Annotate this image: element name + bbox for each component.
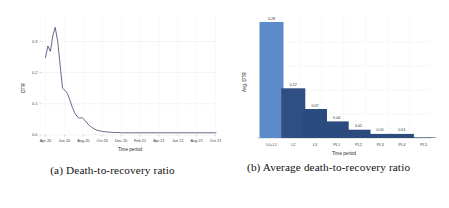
subfigure-a-caption: (a) Death-to-recovery ratio: [15, 164, 211, 178]
bar-chart-svg: 0.28 0.12 0.07 0.04 0.02 0.01 0.01 Avg. …: [225, 0, 449, 160]
bar-value-label: 0.07: [311, 104, 318, 108]
line-chart-svg: 0.0 0.1 0.2 0.3 DTR: [0, 0, 225, 162]
x-axis-title: Time period: [118, 147, 143, 152]
subfigure-b-caption: (b) Average death-to-recovery ratio: [239, 161, 435, 175]
y-tick-label: 0.3: [32, 39, 37, 44]
x-tick-label: Apr 20: [40, 138, 52, 143]
x-tick-label: PL1: [333, 142, 340, 147]
x-tick-label: Dec 20: [115, 138, 128, 143]
x-axis-title: Time period: [332, 151, 357, 156]
bar-value-label: 0.01: [398, 128, 405, 132]
x-tick-label: PL2: [355, 142, 362, 147]
bar-PL3[interactable]: [368, 134, 392, 138]
y-tick-label: 0.0: [32, 132, 38, 137]
bar-value-label: 0.02: [355, 124, 362, 128]
bar-value-label: 0.12: [290, 83, 297, 87]
bar-value-label: 0.04: [333, 116, 340, 120]
bar-chart-avg-dtr: 0.28 0.12 0.07 0.04 0.02 0.01 0.01 Avg. …: [225, 0, 449, 160]
x-tick-label: Feb 21: [134, 138, 146, 143]
bar-value-label: 0.01: [377, 128, 384, 132]
bar-PL4[interactable]: [390, 134, 414, 138]
x-tick-label: L0+L1: [266, 142, 277, 147]
x-tick-label: Apr 21: [153, 138, 164, 143]
y-axis-title: Avg. DTR: [242, 71, 247, 92]
x-tick-label: Jun 21: [172, 138, 184, 143]
bar-L0L1[interactable]: [260, 22, 284, 138]
line-chart-dtr: 0.0 0.1 0.2 0.3 DTR: [0, 0, 225, 162]
bar-L2[interactable]: [281, 88, 305, 138]
x-tick-label: Jun 20: [59, 138, 72, 143]
x-tick-label: PL5: [420, 142, 427, 147]
x-tick-label: L2: [291, 142, 295, 147]
figure-container: 0.0 0.1 0.2 0.3 DTR: [0, 0, 449, 208]
x-tick-label: Oct 21: [210, 138, 221, 143]
bar-PL1[interactable]: [325, 121, 349, 138]
bar-L3[interactable]: [303, 109, 327, 138]
y-tick-label: 0.1: [32, 101, 37, 106]
subfigure-a: 0.0 0.1 0.2 0.3 DTR: [0, 0, 225, 208]
x-tick-label: L3: [313, 142, 317, 147]
subfigure-b: 0.28 0.12 0.07 0.04 0.02 0.01 0.01 Avg. …: [225, 0, 449, 208]
x-tick-label: Aug 21: [191, 138, 203, 143]
x-tick-label: PL4: [398, 142, 406, 147]
x-tick-label: Aug 20: [77, 138, 90, 143]
x-tick-label: PL3: [377, 142, 384, 147]
bar-value-label: 0.28: [268, 17, 275, 21]
bar-PL2[interactable]: [347, 130, 371, 138]
x-tick-label: Oct 20: [96, 138, 108, 143]
bar-PL5[interactable]: [412, 137, 436, 138]
y-axis-title: DTR: [21, 83, 26, 93]
y-tick-label: 0.2: [32, 70, 37, 75]
